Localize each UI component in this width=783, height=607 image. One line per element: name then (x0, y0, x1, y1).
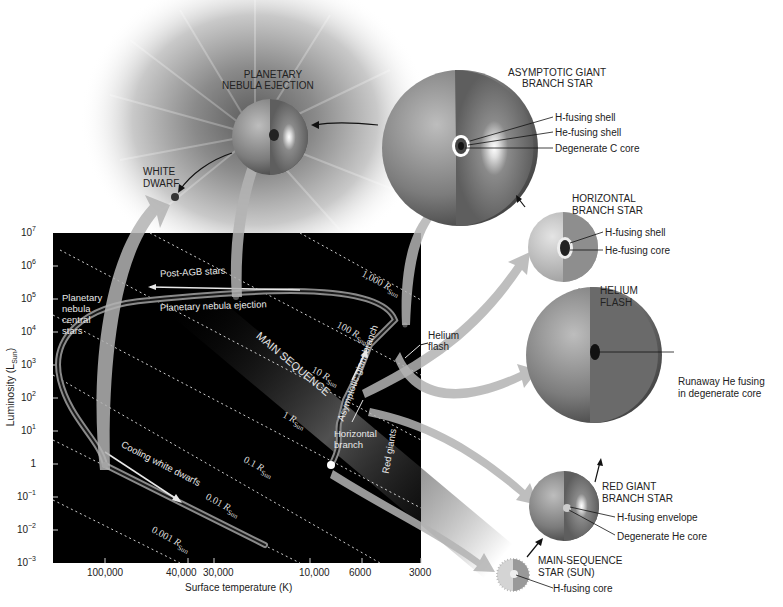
ms-layer: H-fusing core (553, 583, 612, 594)
agb-layer: Degenerate C core (555, 143, 640, 154)
pn-ejection-title-2: NEBULA EJECTION (222, 80, 314, 92)
agb-star-title-2: BRANCH STAR (522, 78, 593, 90)
y-tick: 10−3 (6, 557, 36, 568)
pn-ejection-title: PLANETARY (243, 69, 303, 81)
y-tick: 107 (6, 227, 36, 238)
x-tick: 10,000 (299, 567, 330, 578)
helium-flash-label: Helium flash (428, 330, 459, 352)
pn-central-stars-label: Planetary nebula central stars (62, 292, 102, 336)
y-tick: 106 (6, 260, 36, 271)
horizontal-branch-star (528, 212, 598, 282)
main-sequence-sun (497, 559, 529, 591)
agb-star-title: ASYMPTOTIC GIANT (508, 67, 606, 79)
y-tick: 101 (6, 425, 36, 436)
x-tick: 6000 (349, 567, 371, 578)
x-axis-label: Surface temperature (K) (185, 582, 292, 593)
red-giant-title: RED GIANT BRANCH STAR (602, 481, 673, 504)
y-tick: 10−2 (6, 524, 36, 535)
white-dwarf-dot (171, 193, 179, 201)
white-dwarf-title: WHITE DWARF (143, 166, 179, 189)
hb-layer: He-fusing core (605, 245, 670, 256)
x-tick: 3000 (409, 567, 431, 578)
agb-layer: H-fusing shell (555, 112, 616, 123)
y-tick: 10−1 (6, 491, 36, 502)
horizontal-branch-label: Horizontal branch (334, 428, 377, 450)
main-sequence-star-title: MAIN-SEQUENCE STAR (SUN) (538, 555, 622, 578)
agb-layer: He-fusing shell (555, 127, 621, 138)
y-tick: 105 (6, 293, 36, 304)
y-tick: 103 (6, 359, 36, 370)
red-giant-star (529, 471, 599, 541)
helium-flash-layers: Runaway He fusing in degenerate core (678, 376, 765, 400)
x-tick: 40,000 (166, 567, 197, 578)
sun-position-marker (327, 461, 335, 469)
y-tick: 104 (6, 326, 36, 337)
y-tick: 102 (6, 392, 36, 403)
x-tick: 100,000 (87, 567, 123, 578)
helium-flash-title: HELIUM FLASH (600, 285, 638, 308)
helium-flash-star (526, 287, 662, 423)
x-tick: 30,000 (203, 567, 234, 578)
y-tick: 1 (6, 458, 36, 469)
rg-layer: H-fusing envelope (617, 512, 698, 523)
planetary-nebula-star (232, 99, 308, 175)
hb-star-title: HORIZONTAL BRANCH STAR (572, 193, 643, 216)
rg-layer: Degenerate He core (617, 531, 707, 542)
hb-layer: H-fusing shell (605, 227, 666, 238)
